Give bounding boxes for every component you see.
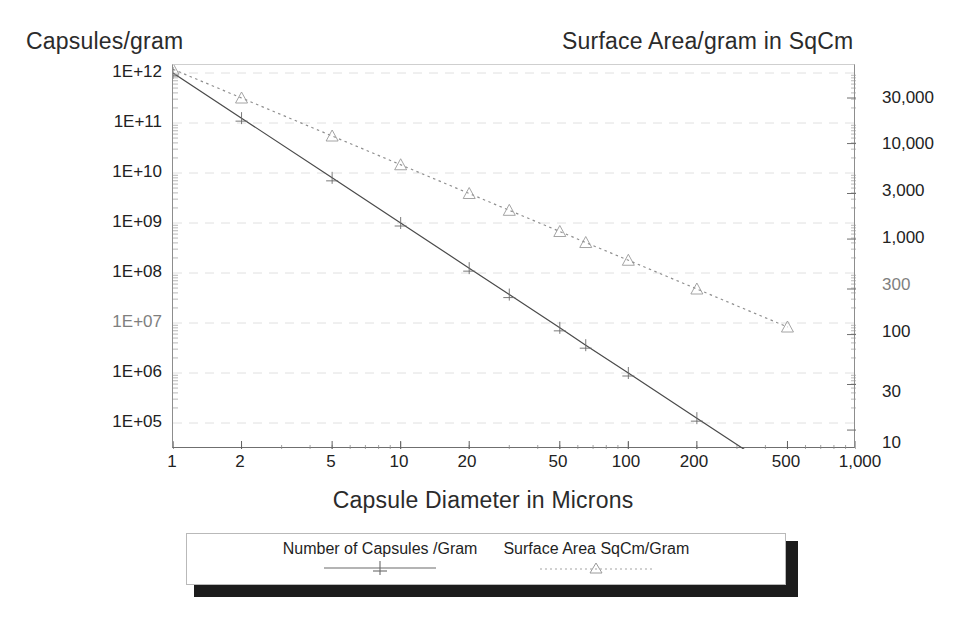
y-right-tick-label: 1,000 <box>882 228 925 248</box>
y-right-tick-label: 3,000 <box>882 181 925 201</box>
y-left-tick-label: 1E+09 <box>52 212 162 232</box>
y-left-tick-label: 1E+07 <box>52 312 162 332</box>
y-right-tick-label: 30 <box>882 382 901 402</box>
legend-swatch-solid-plus <box>320 560 440 580</box>
series-line-capsules <box>173 73 787 449</box>
x-tick-label: 5 <box>326 452 335 472</box>
x-tick-label: 1 <box>167 452 176 472</box>
y-right-tick-label: 30,000 <box>882 88 934 108</box>
legend: Number of Capsules /Gram Surface Area Sq… <box>186 533 790 589</box>
y-left-tick-label: 1E+11 <box>52 112 162 132</box>
left-axis-title: Capsules/gram <box>26 28 183 55</box>
series-line-surface <box>173 69 787 327</box>
plot-svg <box>173 65 856 449</box>
y-left-tick-label: 1E+12 <box>52 62 162 82</box>
series-markers-surface <box>173 65 793 332</box>
x-tick-label: 50 <box>549 452 568 472</box>
series-markers-capsules <box>173 67 703 424</box>
x-tick-label: 2 <box>235 452 244 472</box>
legend-swatch-dotted-triangle <box>536 560 656 580</box>
legend-entry-surface[interactable]: Surface Area SqCm/Gram <box>503 540 689 580</box>
x-axis-title: Capsule Diameter in Microns <box>0 487 966 514</box>
y-right-tick-label: 10,000 <box>882 134 934 154</box>
y-left-tick-label: 1E+08 <box>52 262 162 282</box>
x-tick-label: 500 <box>772 452 800 472</box>
y-left-tick-label: 1E+05 <box>52 412 162 432</box>
gridlines <box>173 73 856 423</box>
right-axis-title: Surface Area/gram in SqCm <box>562 28 853 55</box>
x-tick-label: 1,000 <box>839 452 882 472</box>
legend-entry-capsules[interactable]: Number of Capsules /Gram <box>283 540 478 580</box>
y-right-tick-label: 300 <box>882 275 910 295</box>
legend-box: Number of Capsules /Gram Surface Area Sq… <box>186 533 786 585</box>
legend-label-capsules: Number of Capsules /Gram <box>283 540 478 558</box>
chart-container: Capsules/gram Surface Area/gram in SqCm … <box>0 0 966 629</box>
x-tick-label: 100 <box>612 452 640 472</box>
y-right-tick-label: 10 <box>882 433 901 453</box>
legend-label-surface: Surface Area SqCm/Gram <box>503 540 689 558</box>
x-tick-label: 200 <box>680 452 708 472</box>
y-left-tick-label: 1E+10 <box>52 162 162 182</box>
y-left-tick-label: 1E+06 <box>52 362 162 382</box>
axis-minor-ticks <box>173 75 856 430</box>
plot-area <box>172 64 855 448</box>
x-tick-label: 20 <box>458 452 477 472</box>
x-tick-label: 10 <box>390 452 409 472</box>
y-right-tick-label: 100 <box>882 322 910 342</box>
axis-x-ticks <box>173 441 856 449</box>
